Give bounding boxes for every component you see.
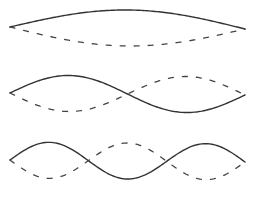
- mode-1-group: [10, 10, 245, 46]
- mode-3-dashed-curve: [10, 143, 245, 180]
- mode-2-group: [10, 76, 245, 113]
- mode-2-solid-curve: [10, 76, 245, 113]
- standing-waves-diagram: [0, 0, 256, 197]
- mode-1-dashed-curve: [10, 27, 245, 46]
- mode-1-solid-curve: [10, 10, 245, 29]
- mode-3-solid-curve: [10, 142, 245, 179]
- mode-3-group: [10, 142, 245, 179]
